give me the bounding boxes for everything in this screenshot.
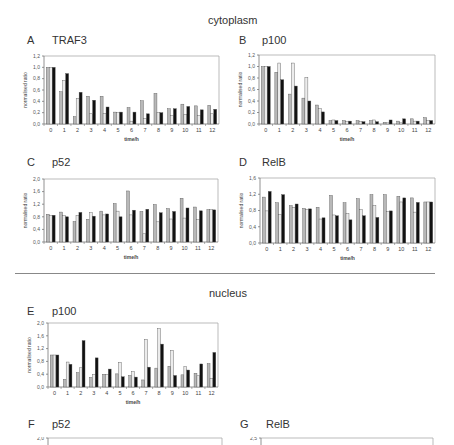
bar-series3 — [146, 114, 149, 124]
bar-series3 — [362, 122, 365, 124]
bar-series1 — [356, 121, 359, 124]
x-tick-label: 3 — [306, 246, 309, 252]
chart-c-p52: 0,00,40,81,21,62,00123456789101112time/h… — [0, 172, 227, 272]
bar-series3 — [213, 210, 216, 242]
bar-series1 — [73, 117, 76, 124]
bar-series2 — [427, 202, 430, 243]
x-tick-label: 2 — [292, 246, 295, 252]
y-tick-label: 0,8 — [33, 75, 40, 81]
x-tick-label: 12 — [208, 245, 214, 251]
bar-series2 — [184, 114, 187, 124]
y-tick-label: 0,6 — [33, 87, 40, 93]
bar-series3 — [119, 217, 122, 242]
bar-series1 — [329, 121, 332, 124]
bar-series3 — [295, 204, 298, 243]
bar-series3 — [92, 216, 95, 242]
bar-series1 — [262, 197, 265, 243]
bar-series1 — [397, 121, 400, 124]
bar-series1 — [63, 379, 66, 387]
bar-series2 — [63, 216, 66, 242]
y-tick-label: 0,8 — [249, 207, 256, 213]
bar-series2 — [291, 63, 294, 124]
bar-series1 — [155, 368, 158, 387]
y-axis-label: normalised ratio — [26, 337, 32, 373]
panel-letter-a: A — [27, 34, 34, 46]
panel-title-b: p100 — [262, 34, 286, 46]
x-axis-label: time/h — [124, 254, 139, 260]
x-tick-label: 5 — [118, 390, 121, 396]
x-tick-label: 6 — [131, 390, 134, 396]
panel-title-c: p52 — [52, 156, 70, 168]
y-tick-label: 0,2 — [33, 109, 40, 115]
bar-series2 — [346, 122, 349, 124]
bar-series1 — [194, 373, 197, 387]
bar-series3 — [161, 344, 164, 387]
bar-series1 — [303, 208, 306, 243]
x-tick-label: 1 — [63, 245, 66, 251]
bar-series3 — [268, 191, 271, 243]
bar-series3 — [200, 364, 203, 387]
x-tick-label: 4 — [103, 127, 106, 133]
x-tick-label: 6 — [345, 127, 348, 133]
bar-series2 — [306, 209, 309, 243]
x-tick-label: 12 — [425, 127, 431, 133]
y-tick-label: 0,0 — [33, 121, 40, 127]
x-tick-label: 3 — [92, 390, 95, 396]
bar-series1 — [167, 109, 170, 124]
bar-series3 — [281, 80, 284, 124]
bar-series3 — [362, 216, 365, 243]
y-tick-label: 0,4 — [37, 371, 44, 377]
bar-series3 — [403, 119, 406, 124]
panel-title-d: RelB — [262, 156, 286, 168]
panel-letter-g: G — [240, 418, 249, 430]
chart-f-p52: 2,0 — [0, 437, 227, 445]
bar-series1 — [167, 209, 170, 242]
bar-series3 — [199, 211, 202, 242]
bar-series1 — [397, 196, 400, 243]
bar-series1 — [343, 121, 346, 124]
section-title-cytoplasm: cytoplasm — [208, 14, 258, 26]
bar-series3 — [376, 122, 379, 124]
bar-series2 — [359, 210, 362, 243]
x-tick-label: 12 — [208, 390, 214, 396]
x-tick-label: 8 — [157, 127, 160, 133]
bar-series3 — [187, 106, 190, 124]
chart-b-p100: 0,00,20,40,60,81,01,20123456789101112tim… — [227, 50, 454, 150]
x-tick-label: 11 — [195, 245, 201, 251]
bar-series3 — [120, 112, 123, 124]
bar-series1 — [410, 119, 413, 124]
bar-series2 — [359, 122, 362, 124]
bar-series1 — [113, 204, 116, 242]
y-tick-label: 0,4 — [33, 226, 40, 232]
bar-series1 — [142, 380, 145, 387]
x-tick-label: 5 — [332, 127, 335, 133]
y-tick-label: 0,4 — [33, 98, 40, 104]
bar-series2 — [145, 339, 148, 387]
bar-series1 — [424, 118, 427, 124]
bar-series2 — [130, 121, 133, 124]
y-tick-label: 0,0 — [248, 121, 255, 127]
bar-series2 — [196, 220, 199, 242]
y-tick-label: 2,5 — [250, 437, 257, 441]
x-tick-label: 4 — [318, 127, 321, 133]
panel-letter-d: D — [239, 156, 247, 168]
x-axis-label: time/h — [340, 136, 355, 142]
x-tick-label: 0 — [264, 127, 267, 133]
y-axis-label: normalised ratio — [22, 192, 28, 228]
bar-series1 — [73, 222, 76, 242]
bar-series2 — [318, 108, 321, 124]
bar-series1 — [129, 375, 132, 387]
panel-letter-b: B — [239, 34, 246, 46]
x-tick-label: 7 — [143, 245, 146, 251]
x-tick-label: 12 — [209, 127, 215, 133]
bar-series3 — [132, 210, 135, 242]
bar-series3 — [389, 120, 392, 124]
y-tick-label: 2,0 — [37, 437, 44, 441]
x-tick-label: 0 — [49, 245, 52, 251]
bar-series3 — [133, 112, 136, 124]
bar-series2 — [66, 362, 69, 387]
bar-series1 — [50, 355, 53, 387]
bar-series2 — [90, 114, 93, 124]
bar-series3 — [309, 209, 312, 243]
bar-series3 — [79, 212, 82, 242]
